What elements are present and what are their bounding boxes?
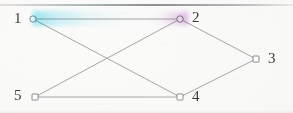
diagram-canvas: 12345 [0,0,293,113]
graph-edge-2-3 [180,19,256,59]
graph-node-5[interactable] [32,94,38,100]
nodes-group [30,16,259,100]
edges-group [33,19,256,97]
graph-node-2[interactable] [177,16,183,22]
node-label-3: 3 [268,51,276,66]
graph-svg [0,0,293,113]
node-label-1: 1 [14,11,22,26]
graph-node-3[interactable] [253,56,259,62]
node-label-5: 5 [14,88,22,103]
node-label-4: 4 [192,89,200,104]
node-label-2: 2 [192,10,200,25]
graph-node-1[interactable] [30,16,36,22]
graph-node-4[interactable] [177,94,183,100]
